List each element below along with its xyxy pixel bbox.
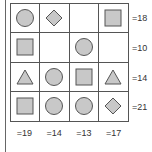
row-sum-4: =21 (132, 102, 147, 112)
row-sum-1: =18 (132, 13, 147, 23)
cell-r3-c4 (99, 63, 128, 92)
cell-r4-c3 (70, 92, 99, 121)
cell-r1-c4 (99, 4, 128, 33)
col-sum-3: =13 (70, 128, 99, 138)
puzzle-grid (10, 3, 129, 122)
cell-r2-c1 (11, 33, 40, 62)
cell-r1-c3 (70, 4, 99, 33)
cell-r3-c2 (40, 63, 69, 92)
square-icon (104, 9, 122, 27)
triangle-icon (16, 69, 34, 85)
cell-r4-c1 (11, 92, 40, 121)
diamond-icon (45, 9, 63, 27)
triangle-icon (104, 69, 122, 85)
cell-r3-c3 (70, 63, 99, 92)
col-sum-1: =19 (10, 128, 39, 138)
cell-r1-c1 (11, 4, 40, 33)
cell-r1-c2 (40, 4, 69, 33)
square-icon (16, 38, 34, 56)
row-sum-3: =14 (132, 73, 147, 83)
left-border-line (5, 0, 6, 152)
col-sum-4: =17 (99, 128, 128, 138)
square-icon (75, 68, 93, 86)
cell-r3-c1 (11, 63, 40, 92)
cell-r2-c4 (99, 33, 128, 62)
circle-icon (44, 96, 64, 116)
circle-icon (15, 8, 35, 28)
cell-r2-c2 (40, 33, 69, 62)
cell-r4-c4 (99, 92, 128, 121)
circle-icon (44, 67, 64, 87)
cell-r2-c3 (70, 33, 99, 62)
square-icon (16, 97, 34, 115)
diamond-icon (104, 97, 122, 115)
col-sum-2: =14 (40, 128, 69, 138)
row-sum-2: =10 (132, 43, 147, 53)
circle-icon (74, 96, 94, 116)
circle-icon (74, 37, 94, 57)
cell-r4-c2 (40, 92, 69, 121)
